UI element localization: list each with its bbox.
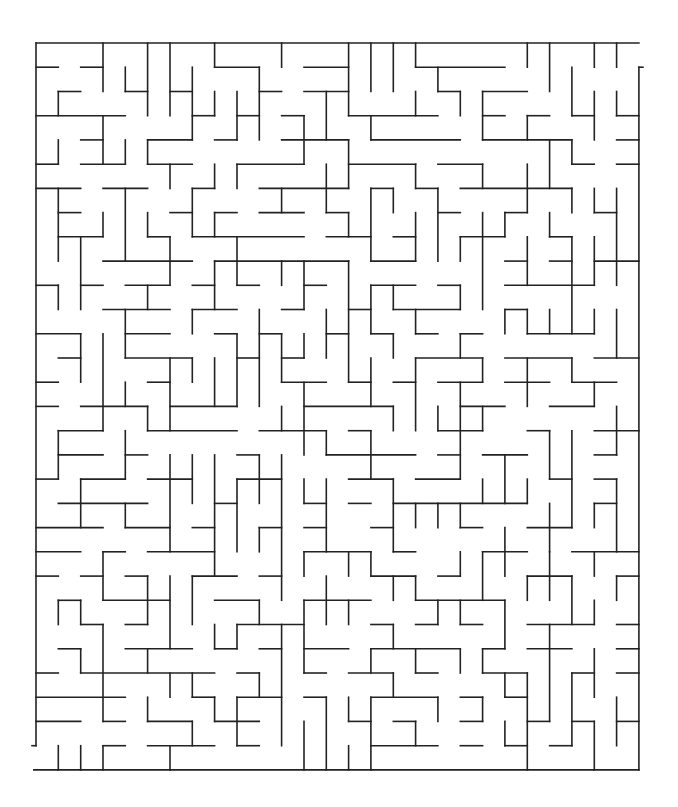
maze-board — [0, 0, 678, 807]
